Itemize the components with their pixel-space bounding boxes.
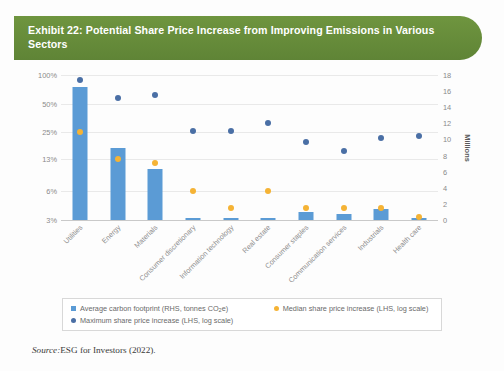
bar-average-carbon-footprint[interactable] bbox=[299, 212, 314, 220]
chart-column: Real estate bbox=[250, 75, 288, 220]
bar-average-carbon-footprint[interactable] bbox=[336, 214, 351, 220]
marker-maximum-share-price-increase[interactable] bbox=[341, 148, 347, 154]
chart-column: Consumer discretionary bbox=[174, 75, 212, 220]
plot-area: Millions 3%6%13%25%50%100%02468101214161… bbox=[61, 75, 438, 220]
marker-median-share-price-increase[interactable] bbox=[152, 160, 158, 166]
x-axis-tick-label: Utilities bbox=[61, 223, 84, 246]
legend-label-maximum-increase: Maximum share price increase (LHS, log s… bbox=[80, 316, 233, 325]
legend-swatch-circle-median bbox=[274, 306, 279, 311]
marker-maximum-share-price-increase[interactable] bbox=[115, 95, 121, 101]
chart-legend: Average carbon footprint (RHS, tonnes CO… bbox=[62, 298, 442, 331]
y-axis-right-tick: 14 bbox=[443, 103, 451, 112]
marker-maximum-share-price-increase[interactable] bbox=[416, 133, 422, 139]
legend-item-maximum-increase[interactable]: Maximum share price increase (LHS, log s… bbox=[71, 316, 233, 325]
right-axis-title: Millions bbox=[464, 134, 473, 162]
y-axis-left-tick: 100% bbox=[38, 71, 57, 80]
exhibit-title-banner: Exhibit 22: Potential Share Price Increa… bbox=[14, 16, 482, 60]
legend-swatch-square bbox=[71, 306, 76, 311]
bar-average-carbon-footprint[interactable] bbox=[185, 218, 200, 220]
page-title: Exhibit 22: Potential Share Price Increa… bbox=[28, 24, 456, 52]
legend-item-avg-carbon-footprint[interactable]: Average carbon footprint (RHS, tonnes CO… bbox=[71, 304, 274, 313]
chart-column: Consumer staples bbox=[287, 75, 325, 220]
y-axis-right-tick: 10 bbox=[443, 135, 451, 144]
legend-label-avg-carbon-footprint: Average carbon footprint (RHS, tonnes CO… bbox=[80, 304, 228, 313]
exhibit-page: Exhibit 22: Potential Share Price Increa… bbox=[0, 0, 504, 371]
marker-maximum-share-price-increase[interactable] bbox=[190, 128, 196, 134]
chart-column: Materials bbox=[136, 75, 174, 220]
marker-median-share-price-increase[interactable] bbox=[190, 188, 196, 194]
y-axis-left-tick: 13% bbox=[42, 155, 57, 164]
marker-maximum-share-price-increase[interactable] bbox=[378, 135, 384, 141]
marker-median-share-price-increase[interactable] bbox=[265, 188, 271, 194]
chart-container: Millions 3%6%13%25%50%100%02468101214161… bbox=[14, 64, 490, 292]
y-axis-right-tick: 16 bbox=[443, 87, 451, 96]
chart-column: Industrials bbox=[363, 75, 401, 220]
marker-maximum-share-price-increase[interactable] bbox=[152, 92, 158, 98]
marker-median-share-price-increase[interactable] bbox=[303, 205, 309, 211]
marker-maximum-share-price-increase[interactable] bbox=[228, 128, 234, 134]
y-axis-left-tick: 50% bbox=[42, 99, 57, 108]
marker-maximum-share-price-increase[interactable] bbox=[77, 77, 83, 83]
marker-median-share-price-increase[interactable] bbox=[341, 205, 347, 211]
y-axis-right-tick: 6 bbox=[443, 167, 447, 176]
marker-maximum-share-price-increase[interactable] bbox=[265, 120, 271, 126]
legend-label-median-increase: Median share price increase (LHS, log sc… bbox=[283, 304, 429, 313]
x-axis-tick-label: Materials bbox=[133, 223, 160, 250]
x-axis-tick-label: Energy bbox=[99, 223, 121, 245]
y-axis-right-tick: 18 bbox=[443, 71, 451, 80]
bar-average-carbon-footprint[interactable] bbox=[148, 169, 163, 220]
y-axis-right-tick: 4 bbox=[443, 183, 447, 192]
gridline bbox=[61, 220, 438, 221]
marker-maximum-share-price-increase[interactable] bbox=[303, 139, 309, 145]
y-axis-right-tick: 0 bbox=[443, 216, 447, 225]
x-axis-tick-label: Health care bbox=[391, 223, 423, 255]
y-axis-right-tick: 8 bbox=[443, 151, 447, 160]
chart-column: Communication services bbox=[325, 75, 363, 220]
chart-column: Information technology bbox=[212, 75, 250, 220]
y-axis-right-tick: 2 bbox=[443, 199, 447, 208]
y-axis-left-tick: 3% bbox=[46, 216, 57, 225]
source-label: Source: bbox=[32, 345, 60, 355]
bar-average-carbon-footprint[interactable] bbox=[223, 218, 238, 220]
legend-item-median-increase[interactable]: Median share price increase (LHS, log sc… bbox=[274, 304, 429, 313]
y-axis-left-tick: 6% bbox=[46, 187, 57, 196]
marker-median-share-price-increase[interactable] bbox=[228, 205, 234, 211]
x-axis-tick-label: Industrials bbox=[356, 223, 386, 253]
marker-median-share-price-increase[interactable] bbox=[115, 156, 121, 162]
bar-average-carbon-footprint[interactable] bbox=[72, 87, 87, 220]
y-axis-left-tick: 25% bbox=[42, 128, 57, 137]
source-text: ESG for Investors (2022). bbox=[60, 345, 155, 355]
chart-column: Health care bbox=[400, 75, 438, 220]
legend-swatch-circle-maximum bbox=[71, 318, 76, 323]
source-note: Source:ESG for Investors (2022). bbox=[32, 345, 156, 355]
chart-column: Energy bbox=[99, 75, 137, 220]
chart-column: Utilities bbox=[61, 75, 99, 220]
y-axis-right-tick: 12 bbox=[443, 119, 451, 128]
bar-average-carbon-footprint[interactable] bbox=[261, 218, 276, 220]
x-axis-tick-label: Real estate bbox=[241, 223, 273, 255]
